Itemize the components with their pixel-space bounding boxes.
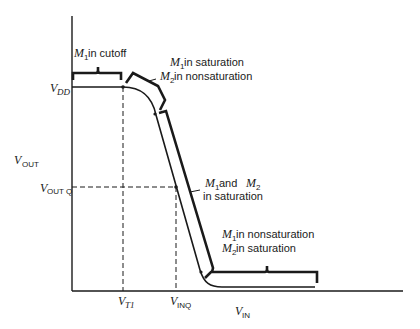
tick-vt1: V T1 bbox=[118, 294, 135, 310]
brace-cutoff bbox=[73, 67, 121, 80]
svg-text:in nonsaturation: in nonsaturation bbox=[174, 70, 252, 82]
svg-text:in nonsaturation: in nonsaturation bbox=[236, 228, 314, 240]
svg-text:in saturation: in saturation bbox=[203, 190, 263, 202]
svg-text:T1: T1 bbox=[125, 300, 135, 310]
svg-text:in cutoff: in cutoff bbox=[88, 47, 127, 59]
point-sat-end bbox=[199, 270, 202, 273]
svg-text:INQ: INQ bbox=[177, 301, 191, 310]
brace-nonsat-tip bbox=[149, 79, 156, 81]
svg-text:DD: DD bbox=[56, 87, 70, 97]
tick-vdd: V DD bbox=[50, 81, 70, 97]
tick-voutq: V OUT Q bbox=[40, 181, 72, 196]
point-q bbox=[174, 185, 178, 189]
label-m1-sat-m2-nonsat: M 1 in saturation M 2 in nonsaturation bbox=[159, 55, 252, 85]
point-sat-start bbox=[153, 112, 156, 115]
label-m1-nonsat-m2-sat: M 1 in nonsaturation M 2 in saturation bbox=[221, 227, 314, 257]
svg-text:IN: IN bbox=[242, 311, 250, 320]
label-m1-cutoff: M 1 in cutoff bbox=[73, 46, 127, 62]
point-vt1 bbox=[121, 85, 125, 89]
svg-text:in saturation: in saturation bbox=[236, 242, 296, 254]
svg-text:and: and bbox=[219, 177, 237, 189]
vtc-diagram: V OUT V DD V OUT Q V T1 V INQ V IN M 1 i… bbox=[0, 0, 420, 329]
x-axis-label: V IN bbox=[235, 304, 250, 320]
brace-saturation-tip bbox=[190, 190, 200, 192]
label-m1-m2-sat: M 1 and M 2 in saturation bbox=[203, 176, 263, 202]
svg-text:OUT Q: OUT Q bbox=[47, 187, 72, 196]
svg-text:in saturation: in saturation bbox=[184, 56, 244, 68]
tick-vinq: V INQ bbox=[170, 294, 191, 310]
y-axis-label: V OUT bbox=[14, 153, 39, 169]
svg-text:OUT: OUT bbox=[22, 160, 39, 169]
brace-m1-nonsat bbox=[205, 266, 317, 283]
